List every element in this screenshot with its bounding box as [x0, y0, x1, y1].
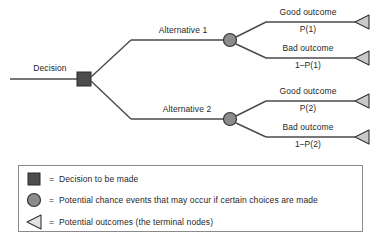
outcome-2-good-label: Good outcome	[280, 86, 337, 96]
outcome-2-bad-probability: 1–P(2)	[295, 139, 321, 149]
terminal-node-3-triangle	[355, 94, 369, 108]
chance-node-2-circle	[224, 113, 237, 126]
alternative-2-label: Alternative 2	[163, 104, 212, 114]
outcome-1-bad-diagonal-line	[236, 44, 266, 58]
alternative-2-diagonal-line	[91, 81, 131, 119]
outcome-1-good-probability: P(1)	[300, 24, 316, 34]
legend-chance-circle-icon	[28, 194, 41, 207]
legend-terminal-triangle-icon	[27, 215, 41, 229]
terminal-node-2-triangle	[355, 51, 369, 65]
decision-node-square	[77, 72, 91, 86]
outcome-1-good-diagonal-line	[236, 22, 266, 37]
alternative-1-label: Alternative 1	[159, 25, 208, 35]
legend-row-1-equals: =	[49, 174, 54, 185]
legend-row-1-text: Decision to be made	[59, 174, 138, 185]
legend-row-3-equals: =	[49, 217, 54, 228]
outcome-2-good-diagonal-line	[236, 101, 266, 116]
terminal-node-4-triangle	[355, 130, 369, 144]
legend-row-2-text: Potential chance events that may occur i…	[59, 195, 318, 206]
legend-row-2-equals: =	[49, 195, 54, 206]
terminal-node-1-triangle	[355, 15, 369, 29]
outcome-1-bad-probability: 1–P(1)	[295, 60, 321, 70]
outcome-1-bad-label: Bad outcome	[282, 43, 333, 53]
outcome-2-good-probability: P(2)	[300, 103, 316, 113]
legend-decision-square-icon	[28, 173, 40, 185]
root-label: Decision	[33, 63, 66, 73]
decision-tree-figure: Decision Alternative 1 Alternative 2 Goo…	[0, 0, 381, 241]
outcome-2-bad-diagonal-line	[236, 123, 266, 137]
chance-node-1-circle	[224, 34, 237, 47]
legend-row-3-text: Potential outcomes (the terminal nodes)	[59, 217, 213, 228]
alternative-1-diagonal-line	[91, 40, 131, 77]
outcome-1-good-label: Good outcome	[280, 7, 337, 17]
outcome-2-bad-label: Bad outcome	[282, 122, 333, 132]
